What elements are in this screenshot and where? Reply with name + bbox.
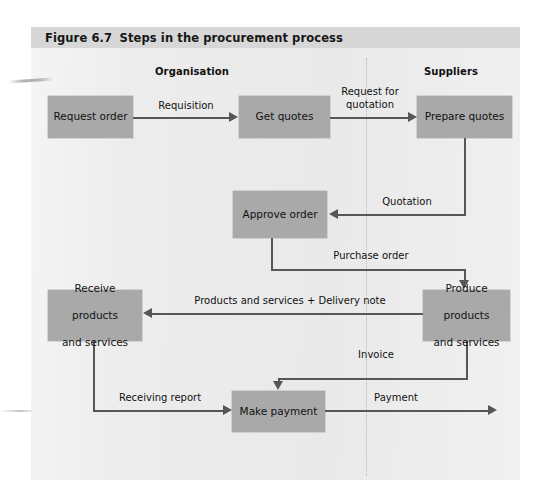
node-receive-products-and-services[interactable]: Receive products and services <box>48 290 142 341</box>
edge-quotation-line-vertical <box>464 138 466 215</box>
edge-invoice-line-horizontal <box>278 378 468 380</box>
figure-title: Steps in the procurement process <box>120 31 343 45</box>
node-produce-products-and-services-label: Produce products and services <box>425 282 507 350</box>
node-produce-line1: Produce <box>429 282 503 296</box>
lane-label-organisation: Organisation <box>155 66 229 77</box>
edge-purchase-order-line-vertical-1 <box>271 238 273 271</box>
edge-label-payment: Payment <box>364 392 428 405</box>
edge-request-for-quotation-line <box>330 117 409 119</box>
figure-procurement-process: Figure 6.7 Steps in the procurement proc… <box>0 0 544 504</box>
edge-payment-line <box>325 410 489 412</box>
node-receive-line3: and services <box>58 336 132 350</box>
node-prepare-quotes[interactable]: Prepare quotes <box>417 96 512 138</box>
edge-label-purchase-order: Purchase order <box>325 250 417 263</box>
edge-requisition-arrowhead-icon <box>229 112 238 122</box>
node-receive-products-and-services-label: Receive products and services <box>54 282 136 350</box>
scan-artifact-mark-2 <box>0 410 32 412</box>
edge-label-invoice: Invoice <box>348 349 404 362</box>
node-request-order-label: Request order <box>50 110 132 124</box>
edge-label-requisition: Requisition <box>156 100 216 113</box>
edge-delivery-arrowhead-icon <box>143 308 152 318</box>
node-approve-order-label: Approve order <box>238 208 321 222</box>
node-get-quotes-label: Get quotes <box>252 110 318 124</box>
edge-label-request-for-quotation: Request for quotation <box>322 86 418 111</box>
edge-receiving-report-arrowhead-icon <box>223 405 232 415</box>
edge-label-request-for-quotation-line2: quotation <box>322 99 418 112</box>
node-prepare-quotes-label: Prepare quotes <box>421 110 508 124</box>
node-produce-products-and-services[interactable]: Produce products and services <box>423 290 510 341</box>
figure-number: Figure 6.7 <box>45 31 112 45</box>
node-approve-order[interactable]: Approve order <box>233 191 327 238</box>
edge-receiving-report-line-vertical <box>93 341 95 412</box>
edge-invoice-arrowhead-icon <box>273 381 283 390</box>
node-produce-line2: products <box>429 309 503 323</box>
swimlane-divider <box>366 58 367 476</box>
edge-label-request-for-quotation-line1: Request for <box>322 86 418 99</box>
node-request-order[interactable]: Request order <box>48 96 133 138</box>
edge-purchase-order-line-horizontal <box>271 269 466 271</box>
edge-requisition-line <box>133 117 230 119</box>
edge-quotation-arrowhead-icon <box>329 209 338 219</box>
edge-receiving-report-line-horizontal <box>93 410 224 412</box>
edge-request-for-quotation-arrowhead-icon <box>408 112 417 122</box>
edge-quotation-line-horizontal <box>338 214 466 216</box>
node-receive-line1: Receive <box>58 282 132 296</box>
figure-caption-bar: Figure 6.7 Steps in the procurement proc… <box>31 27 520 48</box>
edge-payment-arrowhead-icon <box>488 405 497 415</box>
node-get-quotes[interactable]: Get quotes <box>239 96 330 138</box>
node-receive-line2: products <box>58 309 132 323</box>
edge-label-quotation: Quotation <box>374 196 440 209</box>
edge-label-receiving-report: Receiving report <box>113 392 207 405</box>
node-make-payment[interactable]: Make payment <box>232 391 325 432</box>
edge-delivery-line <box>152 313 423 315</box>
edge-label-delivery: Products and services + Delivery note <box>188 295 392 308</box>
figure-caption: Figure 6.7 Steps in the procurement proc… <box>45 31 343 45</box>
lane-label-suppliers: Suppliers <box>424 66 478 77</box>
node-produce-line3: and services <box>429 336 503 350</box>
node-make-payment-label: Make payment <box>236 405 322 419</box>
